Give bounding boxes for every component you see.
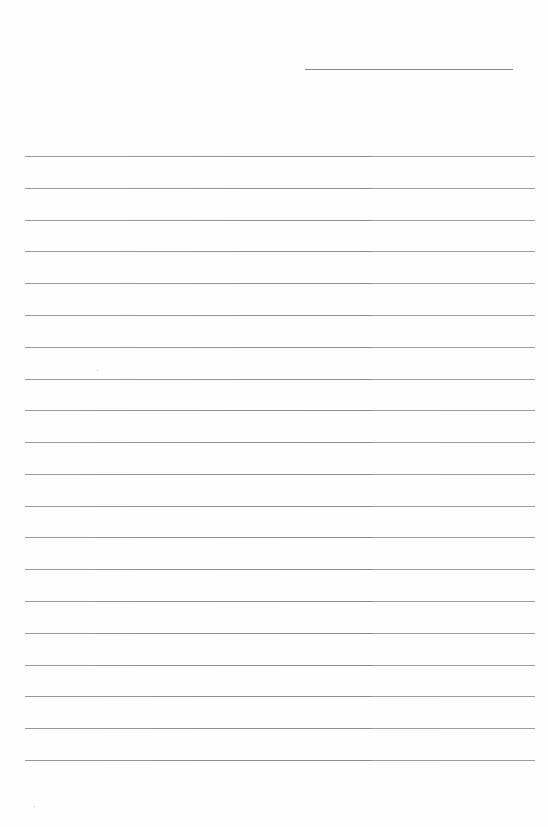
scan-speck — [34, 806, 35, 807]
ruled-line — [25, 220, 535, 221]
ruled-line — [25, 569, 535, 570]
lined-paper-page — [0, 0, 548, 827]
ruled-line — [25, 315, 535, 316]
ruled-line — [25, 156, 535, 157]
ruled-line — [25, 347, 535, 348]
ruled-line — [25, 601, 535, 602]
ruled-line — [25, 537, 535, 538]
ruled-line — [25, 379, 535, 380]
ruled-line — [25, 442, 535, 443]
ruled-line — [25, 728, 535, 729]
ruled-line — [25, 474, 535, 475]
ruled-line — [25, 283, 535, 284]
ruled-line — [25, 696, 535, 697]
ruled-line — [25, 188, 535, 189]
ruled-line — [25, 410, 535, 411]
ruled-line — [25, 633, 535, 634]
scan-speck — [97, 370, 98, 371]
ruled-line — [25, 760, 535, 761]
ruled-line — [25, 251, 535, 252]
header-name-line — [305, 69, 513, 70]
ruled-line — [25, 665, 535, 666]
ruled-line — [25, 506, 535, 507]
